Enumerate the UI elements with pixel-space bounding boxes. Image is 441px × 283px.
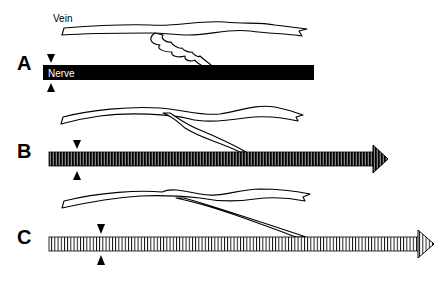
panel-label-c: C	[17, 226, 31, 248]
nerve-c	[49, 237, 419, 251]
marker-bottom-b	[73, 171, 81, 180]
marker-bottom-c	[97, 255, 105, 265]
vein-a	[62, 22, 307, 36]
marker-top-b	[73, 140, 81, 149]
nerve-a	[43, 65, 314, 80]
marker-top-a	[47, 54, 55, 63]
panel-c: C	[17, 189, 434, 265]
vein-label: Vein	[53, 13, 72, 24]
panel-b: B	[17, 106, 388, 180]
panel-label-b: B	[17, 140, 31, 162]
vein-branch-a	[151, 33, 212, 66]
marker-bottom-a	[47, 83, 55, 92]
nerve-vein-diagram: A Vein Nerve B C	[0, 0, 441, 283]
panel-label-a: A	[17, 52, 31, 74]
panel-a: A Vein Nerve	[17, 13, 314, 92]
nerve-b	[49, 152, 374, 166]
nerve-b-arrowhead	[373, 145, 388, 173]
vein-branch-c	[176, 198, 306, 237]
marker-top-c	[97, 224, 105, 234]
nerve-c-arrowhead	[418, 230, 434, 258]
nerve-label: Nerve	[48, 68, 75, 79]
